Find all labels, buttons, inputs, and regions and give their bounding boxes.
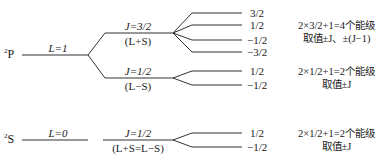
mj-label: −1/2 (247, 79, 267, 91)
p-L-label: L=1 (40, 42, 76, 54)
mj-label: −1/2 (247, 34, 267, 46)
mj-label: 1/2 (250, 65, 264, 77)
p-j32-label: J=3/2 (110, 20, 166, 32)
s-L-label: L=0 (40, 127, 76, 139)
p-j32-note: 2×3/2+1=4个能级 取值±J、±(J−1) (285, 19, 388, 45)
mj-label: 3/2 (250, 7, 264, 19)
p-j12-note: 2×1/2+1=2个能级 取值±J (285, 65, 388, 91)
p-j32-sub: (L+S) (110, 35, 166, 47)
mj-label: −1/2 (247, 141, 267, 153)
mj-label: 1/2 (250, 19, 264, 31)
s-j12-note: 2×1/2+1=2个能级 取值±J (285, 127, 388, 153)
p-j12-label: J=1/2 (110, 65, 166, 77)
mj-label: 1/2 (250, 127, 264, 139)
s-j12-sub: (L+S=L−S) (103, 142, 173, 154)
s-j12-label: J=1/2 (106, 127, 170, 139)
p-j12-sub: (L−S) (110, 80, 166, 92)
term-2P-label: 2P (4, 47, 14, 62)
mj-label: −3/2 (247, 46, 267, 58)
term-2S-label: 2S (4, 132, 14, 147)
